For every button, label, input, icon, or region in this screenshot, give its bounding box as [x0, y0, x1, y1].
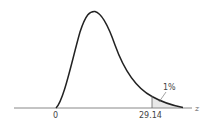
origin-tick-label: 0: [53, 111, 58, 120]
chi-square-chart: 1% 0 29.14 z: [0, 0, 211, 127]
tail-pointer: [159, 92, 166, 102]
x-axis-label: z: [194, 104, 200, 113]
critical-tick-label: 29.14: [139, 111, 162, 120]
density-curve: [56, 11, 183, 108]
tail-label: 1%: [163, 83, 176, 92]
